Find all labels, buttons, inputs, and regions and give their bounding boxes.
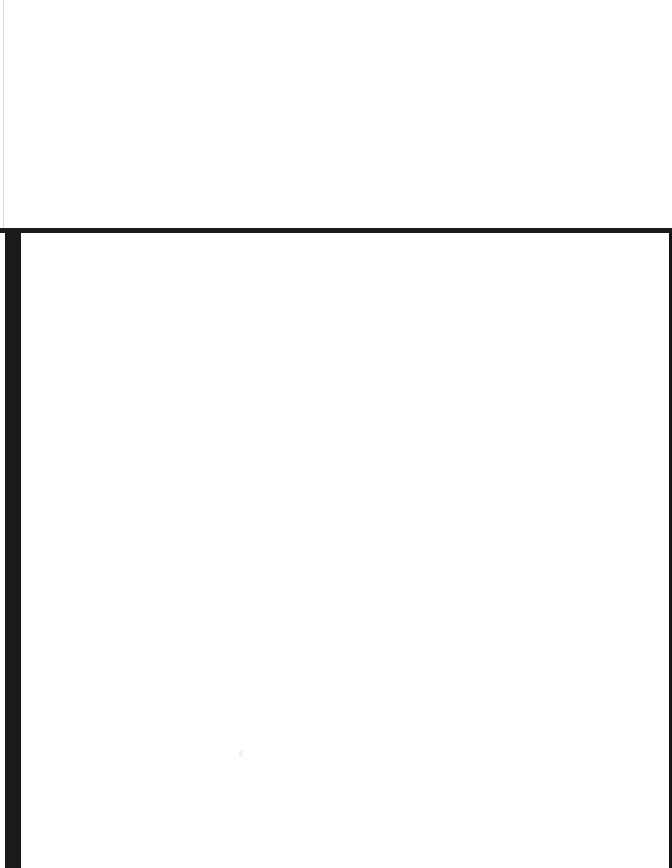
content-region	[21, 233, 669, 868]
upper-panel	[0, 0, 672, 228]
capture-artifact	[239, 750, 243, 757]
upper-panel-left-rule	[3, 0, 4, 228]
screen-root	[0, 0, 672, 868]
left-edge-bar	[5, 233, 21, 868]
